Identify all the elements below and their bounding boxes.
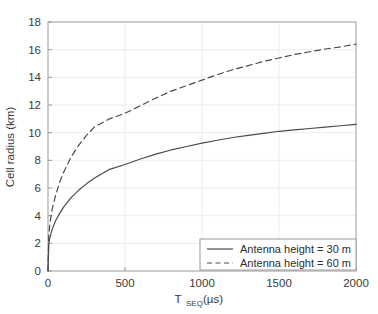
x-axis-label-subscript: SEQ bbox=[186, 299, 203, 308]
legend-label-2: Antenna height = 60 m bbox=[240, 257, 351, 269]
x-tick-label: 1500 bbox=[266, 277, 292, 289]
x-tick-label: 0 bbox=[45, 277, 51, 289]
y-tick-label: 4 bbox=[35, 210, 42, 222]
x-tick-label: 500 bbox=[115, 277, 134, 289]
x-axis-label-unit: (µs) bbox=[203, 293, 223, 305]
y-tick-label: 2 bbox=[35, 237, 41, 249]
y-tick-label: 8 bbox=[35, 154, 41, 166]
x-tick-label: 1000 bbox=[189, 277, 215, 289]
y-tick-label: 12 bbox=[28, 99, 41, 111]
chart-figure: 024681012141618 0500100015002000 Cell ra… bbox=[0, 0, 378, 314]
y-tick-label: 10 bbox=[28, 127, 41, 139]
y-axis-label: Cell radius (km) bbox=[4, 107, 16, 188]
chart-legend[interactable]: Antenna height = 30 mAntenna height = 60… bbox=[200, 239, 356, 270]
legend-label-1: Antenna height = 30 m bbox=[240, 243, 351, 255]
x-tick-label: 2000 bbox=[343, 277, 369, 289]
x-axis-label-main: T bbox=[174, 293, 181, 305]
y-tick-label: 18 bbox=[28, 16, 41, 28]
y-tick-label: 0 bbox=[35, 265, 41, 277]
y-tick-label: 16 bbox=[28, 44, 41, 56]
y-axis-title: Cell radius (km) bbox=[4, 107, 16, 188]
line-chart: 024681012141618 0500100015002000 Cell ra… bbox=[0, 0, 378, 314]
y-tick-label: 14 bbox=[28, 71, 41, 83]
y-tick-label: 6 bbox=[35, 182, 41, 194]
